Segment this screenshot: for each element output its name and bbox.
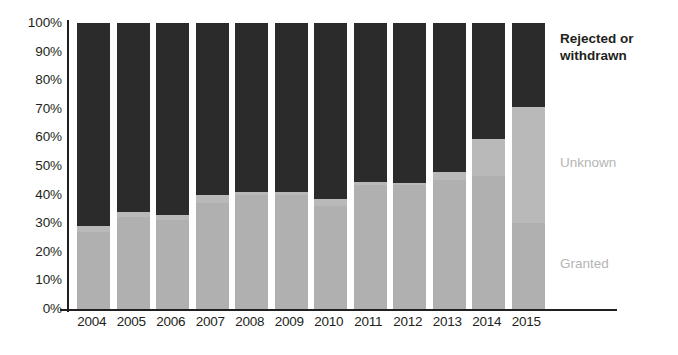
bar-segment-unknown [275, 192, 308, 195]
bar-column[interactable] [117, 23, 150, 309]
bar-segment-rejected [354, 23, 387, 182]
bar-column[interactable] [235, 23, 268, 309]
bar-segment-granted [354, 185, 387, 309]
bar-segment-unknown [314, 199, 347, 206]
bar-segment-unknown [77, 226, 110, 232]
bar-column[interactable] [512, 23, 545, 309]
bar-segment-rejected [433, 23, 466, 172]
bar-column[interactable] [472, 23, 505, 309]
legend-item-rejected-or-withdrawn: Rejected or withdrawn [560, 31, 678, 65]
bar-segment-unknown [393, 183, 426, 184]
y-axis-tick-label: 0% [0, 302, 62, 316]
bar-segment-rejected [77, 23, 110, 226]
bar-segment-rejected [393, 23, 426, 183]
x-axis: 2004200520062007200820092010201120122013… [74, 314, 548, 340]
bar-column[interactable] [314, 23, 347, 309]
x-axis-tick-label: 2011 [349, 314, 389, 330]
bar-segment-granted [314, 206, 347, 309]
x-axis-tick-label: 2010 [309, 314, 349, 330]
bar-column[interactable] [77, 23, 110, 309]
bar-segment-granted [235, 195, 268, 309]
bar-segment-unknown [433, 172, 466, 181]
bar-segment-unknown [472, 139, 505, 176]
x-axis-tick-label: 2004 [72, 314, 112, 330]
bar-column[interactable] [156, 23, 189, 309]
bar-segment-unknown [156, 215, 189, 221]
bar-column[interactable] [433, 23, 466, 309]
bar-segment-granted [117, 217, 150, 309]
bar-segment-unknown [117, 212, 150, 218]
y-axis-tick-label: 20% [0, 245, 62, 259]
y-axis-tick-label: 10% [0, 273, 62, 287]
y-axis-tick-label: 90% [0, 45, 62, 59]
chart-legend: Rejected or withdrawn Unknown Granted [560, 0, 678, 355]
bar-column[interactable] [354, 23, 387, 309]
bar-segment-granted [433, 180, 466, 309]
bar-segment-unknown [512, 107, 545, 223]
bar-column[interactable] [393, 23, 426, 309]
bar-segment-rejected [512, 23, 545, 107]
y-axis-line [67, 20, 69, 312]
bar-segment-unknown [235, 192, 268, 195]
bar-segment-granted [196, 203, 229, 309]
bar-column[interactable] [196, 23, 229, 309]
y-axis-tick-label: 70% [0, 102, 62, 116]
bar-segment-rejected [235, 23, 268, 192]
y-axis-tick-label: 40% [0, 188, 62, 202]
bar-segment-rejected [196, 23, 229, 195]
x-axis-tick-label: 2006 [151, 314, 191, 330]
y-axis-tick-label: 100% [0, 16, 62, 30]
legend-item-unknown: Unknown [560, 155, 678, 172]
bar-segment-granted [472, 176, 505, 309]
y-axis-tick-label: 60% [0, 130, 62, 144]
bar-segment-rejected [472, 23, 505, 139]
x-axis-tick-label: 2007 [191, 314, 231, 330]
y-axis-tick-label: 80% [0, 73, 62, 87]
bar-segment-rejected [117, 23, 150, 212]
y-axis: 0%10%20%30%40%50%60%70%80%90%100% [0, 0, 62, 355]
x-axis-tick-label: 2014 [467, 314, 507, 330]
bar-segment-granted [77, 232, 110, 309]
x-axis-line [60, 309, 617, 311]
legend-item-granted: Granted [560, 256, 678, 273]
x-axis-tick-label: 2013 [428, 314, 468, 330]
bar-column[interactable] [275, 23, 308, 309]
y-axis-tick-label: 50% [0, 159, 62, 173]
x-axis-tick-label: 2008 [230, 314, 270, 330]
bar-segment-granted [275, 195, 308, 309]
bar-segment-rejected [275, 23, 308, 192]
bar-segment-unknown [196, 195, 229, 204]
x-axis-tick-label: 2005 [112, 314, 152, 330]
y-axis-tick-label: 30% [0, 216, 62, 230]
x-axis-tick-label: 2012 [388, 314, 428, 330]
stacked-bar-chart: 0%10%20%30%40%50%60%70%80%90%100% 200420… [0, 0, 678, 355]
bar-segment-unknown [354, 182, 387, 185]
bar-segment-rejected [156, 23, 189, 215]
bar-segment-rejected [314, 23, 347, 199]
x-axis-tick-label: 2015 [507, 314, 547, 330]
bar-segment-granted [393, 185, 426, 309]
bar-segment-granted [512, 223, 545, 309]
x-axis-tick-label: 2009 [270, 314, 310, 330]
bar-segment-granted [156, 220, 189, 309]
plot-area [74, 23, 548, 309]
